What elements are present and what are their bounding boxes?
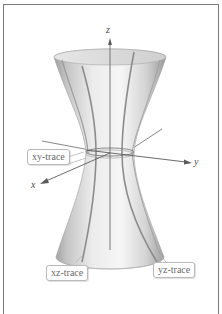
yz-trace-label: yz-trace: [153, 262, 195, 278]
xz-trace-label: xz-trace: [46, 265, 88, 281]
x-axis-label: x: [31, 179, 35, 190]
xy-trace-label: xy-trace: [27, 149, 70, 165]
z-axis-label: z: [106, 24, 110, 35]
y-axis-label: y: [194, 156, 198, 167]
